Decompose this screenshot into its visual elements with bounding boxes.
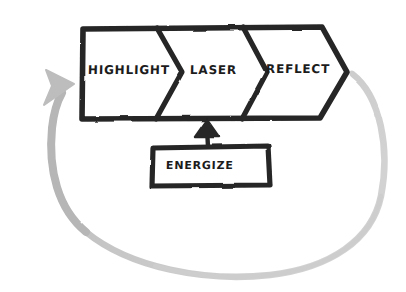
process-step-label-highlight: Highlight [88,58,170,78]
diagram-svg [0,0,406,292]
feedback-loop-thin-tail [155,196,381,277]
input-node-label-energize: Energize [166,154,234,173]
diagram-canvas: Highlight Laser Reflect Energize [0,0,406,292]
process-step-label-laser: Laser [190,58,238,78]
process-step-label-reflect: Reflect [266,57,331,77]
energize-group [152,120,270,186]
energize-arrow-head [195,120,219,137]
